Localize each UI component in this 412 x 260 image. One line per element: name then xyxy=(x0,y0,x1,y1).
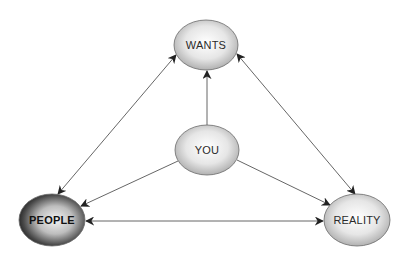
edge-you-to-reality xyxy=(237,160,330,205)
edge-wants-people xyxy=(58,55,176,194)
node-you: YOU xyxy=(175,125,239,175)
node-people: PEOPLE xyxy=(19,194,85,246)
reality-label: REALITY xyxy=(333,214,381,226)
node-reality: REALITY xyxy=(324,194,390,246)
wants-label: WANTS xyxy=(186,39,226,51)
node-wants: WANTS xyxy=(174,20,238,70)
relationship-diagram: WANTS YOU PEOPLE REALITY xyxy=(0,0,412,260)
edge-you-to-people xyxy=(81,161,178,206)
people-label: PEOPLE xyxy=(29,214,75,226)
edge-wants-reality xyxy=(237,54,355,194)
you-label: YOU xyxy=(195,144,219,156)
